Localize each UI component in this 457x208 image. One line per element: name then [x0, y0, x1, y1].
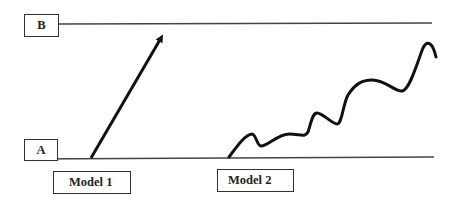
- model-1-label: Model 1: [53, 171, 131, 194]
- level-b-line: [58, 23, 432, 24]
- model-2-curve: [229, 43, 436, 157]
- level-b-label: B: [24, 14, 59, 37]
- model-2-label: Model 2: [217, 169, 294, 192]
- model-1-arrow: [91, 38, 161, 158]
- level-a-label: A: [24, 139, 58, 161]
